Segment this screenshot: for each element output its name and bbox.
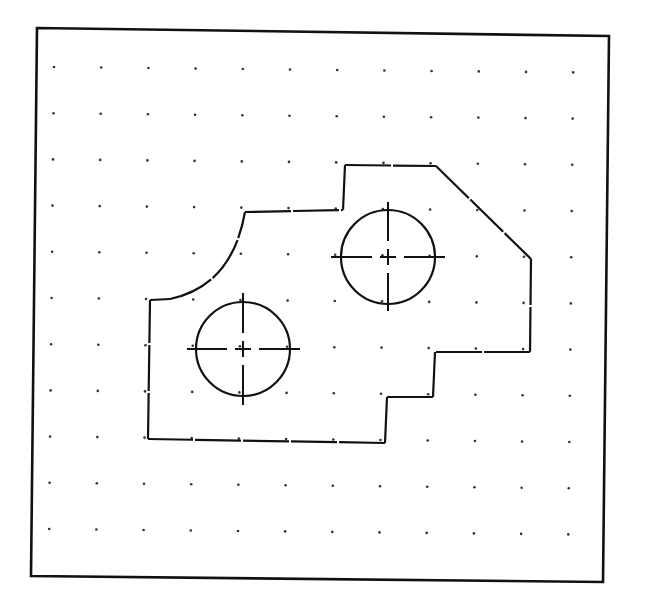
grid-dot bbox=[426, 485, 429, 488]
grid-dot bbox=[521, 440, 524, 443]
grid-dot bbox=[99, 159, 102, 162]
grid-dot bbox=[287, 253, 290, 256]
grid-dot bbox=[570, 302, 573, 305]
grid-dot bbox=[571, 117, 574, 120]
grid-dot bbox=[98, 297, 101, 300]
outline-fillet-arc bbox=[170, 212, 245, 299]
grid-dot bbox=[147, 113, 150, 116]
grid-dot bbox=[473, 486, 476, 489]
grid-dot bbox=[568, 441, 571, 444]
snap-grid bbox=[48, 66, 575, 536]
grid-dot bbox=[427, 347, 430, 350]
grid-dot bbox=[570, 256, 573, 259]
grid-dot bbox=[48, 528, 51, 531]
grid-dot bbox=[335, 161, 338, 164]
grid-dot bbox=[474, 440, 477, 443]
grid-dot bbox=[286, 299, 289, 302]
grid-dot bbox=[430, 116, 433, 119]
grid-dot bbox=[50, 343, 53, 346]
grid-dot bbox=[333, 346, 336, 349]
grid-dot bbox=[568, 487, 571, 490]
grid-dot bbox=[193, 206, 196, 209]
outline-right-edge bbox=[530, 259, 531, 352]
grid-dot bbox=[194, 113, 197, 116]
grid-dot bbox=[237, 530, 240, 533]
grid-dot bbox=[475, 301, 478, 304]
outline-small-top-left bbox=[150, 299, 170, 300]
grid-dot bbox=[192, 298, 195, 301]
grid-dot bbox=[190, 483, 193, 486]
grid-dot bbox=[477, 116, 480, 119]
grid-dot bbox=[50, 297, 53, 300]
outline-top-edge bbox=[345, 165, 436, 166]
grid-dot bbox=[379, 485, 382, 488]
outline-step-down-2 bbox=[385, 397, 387, 443]
outline-step-down-1 bbox=[433, 352, 435, 397]
holes bbox=[187, 202, 445, 405]
grid-dot bbox=[97, 390, 100, 393]
grid-dot bbox=[569, 348, 572, 351]
grid-dot bbox=[144, 390, 147, 393]
grid-dot bbox=[99, 112, 102, 115]
grid-dot bbox=[142, 529, 145, 532]
grid-dot bbox=[287, 207, 290, 210]
grid-dot bbox=[332, 484, 335, 487]
grid-dot bbox=[145, 298, 148, 301]
grid-dot bbox=[146, 205, 149, 208]
grid-dot bbox=[145, 252, 148, 255]
grid-dot bbox=[143, 436, 146, 439]
outline-step-up bbox=[343, 165, 345, 210]
grid-dot bbox=[194, 67, 197, 70]
grid-dot bbox=[429, 162, 432, 165]
grid-dot bbox=[49, 389, 52, 392]
grid-dot bbox=[96, 482, 99, 485]
grid-dot bbox=[100, 66, 103, 69]
grid-dot bbox=[95, 528, 98, 531]
grid-dot bbox=[475, 347, 478, 350]
grid-dot bbox=[331, 531, 334, 534]
grid-dot bbox=[288, 114, 291, 117]
drawing-frame bbox=[31, 28, 609, 582]
grid-dot bbox=[190, 529, 193, 532]
grid-dot bbox=[144, 344, 147, 347]
grid-dot bbox=[380, 393, 383, 396]
grid-dot bbox=[524, 163, 527, 166]
grid-dot bbox=[334, 300, 337, 303]
grid-dot bbox=[572, 71, 575, 74]
grid-dot bbox=[430, 70, 433, 73]
grid-dot bbox=[521, 394, 524, 397]
grid-dot bbox=[477, 163, 480, 166]
grid-dot bbox=[237, 484, 240, 487]
grid-dot bbox=[49, 435, 52, 438]
grid-dot bbox=[520, 533, 523, 536]
grid-dot bbox=[383, 69, 386, 72]
cad-drawing-canvas bbox=[0, 0, 645, 608]
grid-dot bbox=[476, 209, 479, 212]
grid-dot bbox=[143, 483, 146, 486]
grid-dot bbox=[425, 532, 428, 535]
grid-dot bbox=[285, 392, 288, 395]
grid-dot bbox=[569, 395, 572, 398]
grid-dot bbox=[523, 209, 526, 212]
grid-dot bbox=[52, 158, 55, 161]
grid-dot bbox=[288, 161, 291, 164]
grid-dot bbox=[193, 160, 196, 163]
grid-dot bbox=[523, 255, 526, 258]
grid-dot bbox=[429, 208, 432, 211]
grid-dot bbox=[51, 204, 54, 207]
grid-dot bbox=[428, 301, 431, 304]
grid-dot bbox=[473, 532, 476, 535]
grid-dot bbox=[286, 345, 289, 348]
grid-dot bbox=[522, 302, 525, 305]
grid-dot bbox=[379, 439, 382, 442]
grid-dot bbox=[97, 343, 100, 346]
grid-dot bbox=[381, 300, 384, 303]
outline-upper-left-top bbox=[245, 210, 343, 212]
grid-dot bbox=[522, 348, 525, 351]
grid-dot bbox=[240, 253, 243, 256]
grid-dot bbox=[520, 486, 523, 489]
grid-dot bbox=[571, 164, 574, 167]
grid-dot bbox=[476, 255, 479, 258]
grid-dot bbox=[382, 162, 385, 165]
grid-dot bbox=[336, 69, 339, 72]
